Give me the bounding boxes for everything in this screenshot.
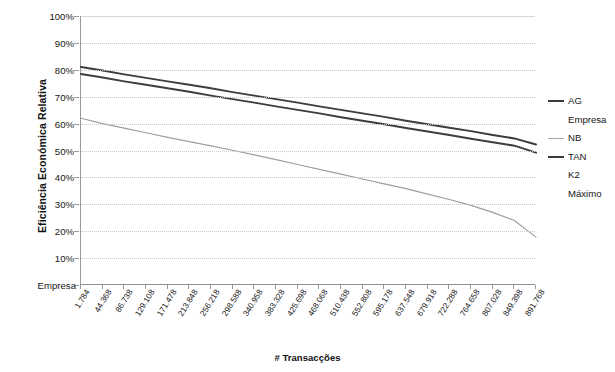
gridline bbox=[81, 43, 535, 44]
x-axis-tick bbox=[427, 285, 428, 289]
x-axis-tick-label: 86.738 bbox=[114, 288, 135, 314]
y-axis-tick-label: 90% bbox=[0, 37, 74, 48]
plot-area bbox=[80, 16, 535, 285]
x-axis-tick bbox=[210, 285, 211, 289]
y-axis-tick bbox=[74, 97, 79, 98]
legend-label: K2 bbox=[568, 170, 580, 180]
x-axis-tick bbox=[167, 285, 168, 289]
legend-label: AG bbox=[568, 96, 582, 106]
x-axis-tick-label: 807.028 bbox=[480, 288, 503, 318]
x-axis-tick bbox=[80, 285, 81, 289]
x-axis-tick-label: 849.398 bbox=[502, 288, 525, 318]
x-axis-tick-labels: 1.78444.36886.738129.108171.478213.84825… bbox=[80, 288, 535, 348]
legend-item[interactable]: NB bbox=[548, 129, 615, 148]
x-axis-tick bbox=[492, 285, 493, 289]
y-axis-tick-label: 100% bbox=[0, 11, 74, 22]
x-axis-tick bbox=[448, 285, 449, 289]
x-axis-tick-label: 171.478 bbox=[155, 288, 178, 318]
y-axis-tick-label: 50% bbox=[0, 145, 74, 156]
y-axis-tick-label: 40% bbox=[0, 172, 74, 183]
x-axis-tick-label: 425.698 bbox=[285, 288, 308, 318]
x-axis-title: # Transacções bbox=[80, 352, 535, 363]
y-axis-tick bbox=[74, 43, 79, 44]
legend-label: TAN bbox=[568, 152, 586, 162]
x-axis-tick bbox=[535, 285, 536, 289]
legend-label: NB bbox=[568, 133, 581, 143]
x-axis-tick bbox=[318, 285, 319, 289]
x-axis-tick-label: 1.784 bbox=[73, 288, 91, 310]
x-axis-tick-label: 213.848 bbox=[177, 288, 200, 318]
x-axis-tick-label: 637.548 bbox=[393, 288, 416, 318]
legend-label: Empresa bbox=[568, 115, 606, 125]
y-axis-tick-labels: 100%90%80%70%60%50%40%30%20%10%Empresa bbox=[0, 16, 78, 285]
x-axis-tick-label: 340.958 bbox=[242, 288, 265, 318]
gridline bbox=[81, 97, 535, 98]
y-axis-tick-label: 80% bbox=[0, 64, 74, 75]
x-axis-tick-label: 722.288 bbox=[437, 288, 460, 318]
x-axis-tick bbox=[232, 285, 233, 289]
gridline bbox=[81, 70, 535, 71]
series-line bbox=[81, 74, 536, 153]
y-axis-tick bbox=[74, 231, 79, 232]
y-axis-tick bbox=[74, 70, 79, 71]
gridline bbox=[81, 124, 535, 125]
gridline bbox=[81, 231, 535, 232]
x-axis-tick-label: 44.368 bbox=[92, 288, 113, 314]
legend-swatch-icon bbox=[548, 156, 564, 158]
legend-item[interactable]: Empresa bbox=[548, 111, 615, 130]
y-axis-tick-label: 60% bbox=[0, 118, 74, 129]
legend-item[interactable]: Máximo bbox=[548, 185, 615, 204]
y-axis-tick bbox=[74, 177, 79, 178]
legend-item[interactable]: AG bbox=[548, 92, 615, 111]
x-axis-tick bbox=[340, 285, 341, 289]
legend-label: Máximo bbox=[568, 189, 602, 199]
x-axis-tick bbox=[297, 285, 298, 289]
x-axis-tick-label: 764.658 bbox=[458, 288, 481, 318]
x-axis-tick bbox=[102, 285, 103, 289]
y-axis-tick bbox=[74, 204, 79, 205]
x-axis-tick-label: 595.178 bbox=[372, 288, 395, 318]
x-axis-tick-label: 129.108 bbox=[133, 288, 156, 318]
x-axis-tick-label: 383.328 bbox=[263, 288, 286, 318]
x-axis-tick bbox=[470, 285, 471, 289]
x-axis-tick bbox=[275, 285, 276, 289]
chart-figure: Eficiência Económica Relativa 100%90%80%… bbox=[0, 0, 615, 372]
x-axis-tick-label: 468.068 bbox=[307, 288, 330, 318]
gridline bbox=[81, 204, 535, 205]
y-axis-tick-label: 30% bbox=[0, 199, 74, 210]
x-axis-tick-label: 510.438 bbox=[328, 288, 351, 318]
legend-swatch-icon bbox=[548, 138, 564, 139]
y-axis-tick bbox=[74, 16, 79, 17]
legend-item[interactable]: TAN bbox=[548, 148, 615, 167]
x-axis-tick-label: 256.218 bbox=[198, 288, 221, 318]
y-axis-tick-label: 70% bbox=[0, 91, 74, 102]
y-axis-tick-label: 20% bbox=[0, 226, 74, 237]
x-axis-tick bbox=[253, 285, 254, 289]
y-axis-tick-label: Empresa bbox=[0, 280, 76, 291]
legend-swatch-icon bbox=[548, 100, 564, 102]
gridline bbox=[81, 177, 535, 178]
gridline bbox=[81, 16, 535, 17]
x-axis-tick bbox=[362, 285, 363, 289]
x-axis-tick bbox=[383, 285, 384, 289]
x-axis-tick-label: 679.918 bbox=[415, 288, 438, 318]
x-axis-tick bbox=[513, 285, 514, 289]
x-axis-tick bbox=[123, 285, 124, 289]
x-axis-tick-label: 298.588 bbox=[220, 288, 243, 318]
y-axis-tick-label: 10% bbox=[0, 253, 74, 264]
x-axis-tick bbox=[145, 285, 146, 289]
x-axis-tick-label: 552.808 bbox=[350, 288, 373, 318]
y-axis-tick bbox=[74, 151, 79, 152]
gridline bbox=[81, 258, 535, 259]
y-axis-tick bbox=[74, 258, 79, 259]
chart-legend: AGEmpresaNBTANK2Máximo bbox=[548, 92, 615, 203]
x-axis-tick bbox=[188, 285, 189, 289]
x-axis-tick-label: 891.768 bbox=[523, 288, 546, 318]
x-axis-tick bbox=[405, 285, 406, 289]
legend-item[interactable]: K2 bbox=[548, 166, 615, 185]
y-axis-tick bbox=[74, 124, 79, 125]
gridline bbox=[81, 151, 535, 152]
